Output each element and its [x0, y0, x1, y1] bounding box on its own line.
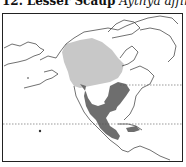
island [39, 130, 41, 132]
island [27, 77, 29, 79]
range-map [0, 0, 186, 167]
map-frame [3, 14, 183, 162]
